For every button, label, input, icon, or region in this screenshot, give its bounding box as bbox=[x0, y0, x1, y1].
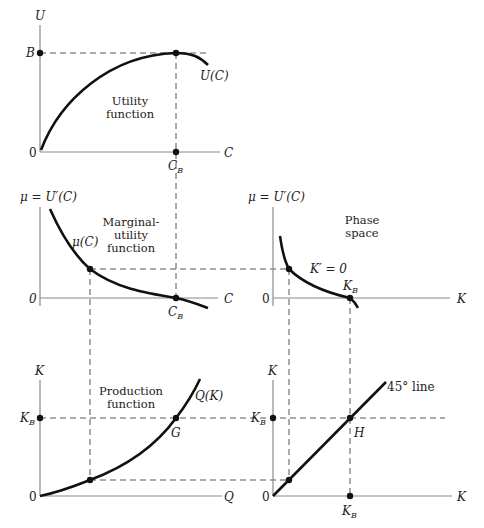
prod-origin-label: 0 bbox=[29, 490, 37, 504]
prod-kb-point bbox=[37, 415, 43, 421]
mu-title-line3: function bbox=[107, 241, 156, 255]
h-point bbox=[347, 415, 353, 421]
forty-five-degree-panel: K KB 0 K KB 45° line H bbox=[250, 364, 467, 520]
ff-origin-label: 0 bbox=[262, 490, 270, 504]
ff-kb-x-point bbox=[347, 493, 353, 499]
production-function-panel: K KB 0 Q Q(K) G Production function bbox=[19, 364, 445, 504]
utility-curve-label: U(C) bbox=[200, 69, 229, 83]
ff-x-label: K bbox=[456, 490, 467, 504]
phase-origin-label: 0 bbox=[262, 292, 270, 306]
cb-point bbox=[173, 149, 179, 155]
phase-kb-label: KB bbox=[342, 279, 358, 295]
utility-y-label: U bbox=[35, 9, 46, 23]
mu-low-point bbox=[87, 266, 93, 272]
mu-cb-point bbox=[173, 295, 179, 301]
phase-title-line2: space bbox=[345, 226, 379, 240]
prod-low-point bbox=[87, 477, 93, 483]
phase-y-label: μ = U′(C) bbox=[248, 190, 305, 204]
utility-b-label: B bbox=[25, 46, 35, 60]
phase-space-panel: μ = U′(C) 0 K KB K′ = 0 Phase space bbox=[248, 190, 467, 496]
phase-x-label: K bbox=[456, 292, 467, 306]
g-label: G bbox=[171, 426, 181, 440]
h-label: H bbox=[353, 426, 365, 440]
prod-title-line2: function bbox=[107, 397, 156, 411]
b-point bbox=[37, 50, 43, 56]
utility-origin-label: 0 bbox=[29, 146, 37, 160]
phase-title-line1: Phase bbox=[345, 213, 380, 227]
mu-x-label: C bbox=[224, 292, 233, 306]
prod-y-label: K bbox=[34, 364, 45, 378]
k-dot-zero-label: K′ = 0 bbox=[309, 262, 347, 276]
mu-title-line1: Marginal- bbox=[103, 215, 160, 229]
mu-curve-label: μ(C) bbox=[72, 235, 99, 249]
phase-kb-point bbox=[347, 295, 353, 301]
utility-peak-point bbox=[173, 50, 179, 56]
forty-five-line-label: 45° line bbox=[387, 380, 435, 394]
four-quadrant-diagram: U B 0 C CB U(C) Utility function μ = U′(… bbox=[0, 0, 484, 528]
ff-kb-y-point bbox=[270, 415, 276, 421]
mu-cb-label: CB bbox=[168, 305, 183, 321]
prod-kb-label: KB bbox=[19, 411, 35, 427]
ff-kb-x-label: KB bbox=[341, 504, 357, 520]
prod-title-line1: Production bbox=[99, 384, 164, 398]
utility-title-line1: Utility bbox=[112, 94, 149, 108]
g-point bbox=[173, 415, 179, 421]
prod-curve-label: Q(K) bbox=[195, 389, 223, 403]
utility-cb-label: CB bbox=[168, 159, 183, 175]
marginal-utility-panel: μ = U′(C) 0 C CB μ(C) Marginal- utility … bbox=[20, 190, 289, 480]
mu-y-label: μ = U′(C) bbox=[20, 190, 77, 204]
prod-x-label: Q bbox=[224, 490, 234, 504]
mu-origin-label: 0 bbox=[29, 292, 37, 306]
mu-title-line2: utility bbox=[114, 228, 149, 242]
ff-kb-y-label: KB bbox=[250, 411, 266, 427]
ff-y-label: K bbox=[267, 364, 278, 378]
ff-low-point bbox=[286, 477, 292, 483]
utility-x-label: C bbox=[224, 146, 233, 160]
phase-low-point bbox=[286, 266, 292, 272]
utility-title-line2: function bbox=[106, 107, 155, 121]
